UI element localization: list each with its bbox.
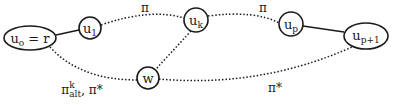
node-u1-label: u1 — [83, 22, 97, 35]
diagram-canvas: uo = r u1 uk w up up+1 π π πkalt, π* π* — [0, 0, 398, 105]
edge-up-up1 — [303, 26, 344, 32]
edge-u0-w — [50, 47, 137, 80]
edge-w-up1 — [159, 47, 352, 81]
edge-label-pi-alt: πkalt, π* — [61, 81, 102, 99]
node-up-label: up — [284, 18, 298, 31]
edge-label-pi-left: π — [141, 2, 149, 14]
node-up1-label: up+1 — [352, 29, 379, 42]
edge-uk-up — [208, 14, 279, 23]
edge-label-pi-star: π* — [268, 82, 282, 94]
edge-u1-uk — [101, 14, 184, 25]
node-u0-label: uo = r — [10, 32, 49, 45]
edge-uk-w — [156, 31, 191, 69]
edge-label-pi-right: π — [259, 2, 267, 14]
edge-u0-u1 — [56, 30, 79, 35]
node-uk-label: uk — [189, 14, 203, 27]
node-w-label: w — [142, 72, 153, 85]
